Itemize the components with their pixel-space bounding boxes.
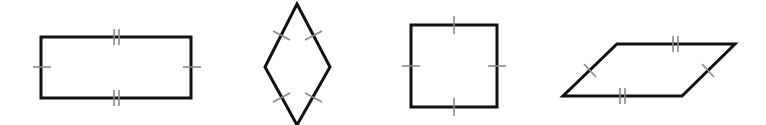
rhombus-shape [265, 4, 330, 125]
square-shape [402, 16, 506, 116]
quadrilaterals-figure [0, 0, 766, 125]
parallelogram-shape [563, 36, 735, 104]
rectangle-shape [33, 29, 201, 106]
rhombus-outline [265, 4, 330, 125]
square-outline [411, 25, 497, 107]
rectangle-outline [41, 37, 191, 98]
